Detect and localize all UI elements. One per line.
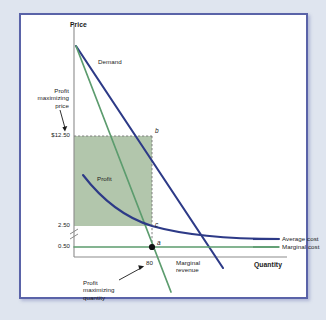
x-axis-title: Quantity	[254, 261, 282, 268]
y-tick-0-50: 0.50	[37, 243, 70, 250]
profit-region-label: Profit	[97, 175, 112, 182]
profit-max-quantity-arrow	[119, 265, 144, 280]
point-a-marker	[149, 244, 155, 250]
profit-max-quantity-line1: Profit	[83, 279, 98, 286]
profit-max-price-line3: price	[55, 102, 69, 109]
point-c-label: c	[155, 221, 158, 228]
y-tick-2-50: 2.50	[37, 222, 70, 229]
marginal-revenue-label-line1: Marginal	[176, 259, 200, 266]
average-cost-label: Average cost	[282, 235, 319, 242]
y-axis-title: Price	[70, 21, 87, 28]
demand-curve-label: Demand	[98, 58, 122, 65]
profit-max-price-line2: maximizing	[38, 94, 69, 101]
profit-max-price-line1: Profit	[54, 87, 69, 94]
marginal-cost-label: Marginal cost	[282, 243, 319, 250]
profit-max-price-arrow	[60, 110, 67, 132]
figure-panel: Price Quantity $12.50 2.50 0.50 80 Deman…	[19, 13, 308, 299]
economics-chart	[21, 15, 306, 297]
x-tick-80: 80	[146, 259, 153, 266]
point-a-label: a	[157, 239, 161, 246]
profit-max-quantity-line2: maximizing	[83, 286, 114, 293]
point-b-label: b	[155, 127, 159, 134]
y-tick-12-50: $12.50	[37, 132, 70, 139]
profit-max-quantity-line3: quantity	[83, 294, 105, 301]
marginal-revenue-label-line2: revenue	[176, 266, 199, 273]
